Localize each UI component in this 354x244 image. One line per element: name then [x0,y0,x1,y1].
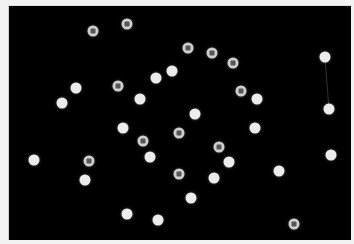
node-dot[interactable] [29,155,40,166]
node-dot[interactable] [167,66,178,77]
node-dot[interactable] [118,123,129,134]
ringed-node-icon[interactable] [113,81,124,92]
ringed-node-icon[interactable] [122,19,133,30]
node-dot[interactable] [145,152,156,163]
node-dot[interactable] [320,52,331,63]
node-dot[interactable] [135,94,146,105]
node-dot[interactable] [80,175,91,186]
node-dot[interactable] [252,94,263,105]
ringed-node-icon[interactable] [88,26,99,37]
ringed-node-icon[interactable] [174,169,185,180]
node-dot[interactable] [122,209,133,220]
node-dot[interactable] [186,193,197,204]
node-dot[interactable] [151,73,162,84]
ringed-node-icon[interactable] [214,142,225,153]
node-dot[interactable] [190,109,201,120]
node-dot[interactable] [57,98,68,109]
ringed-node-icon[interactable] [84,156,95,167]
node-canvas[interactable] [8,5,351,240]
node-dot[interactable] [209,173,220,184]
node-dot[interactable] [71,83,82,94]
node-dot[interactable] [324,104,335,115]
ringed-node-icon[interactable] [174,128,185,139]
node-dot[interactable] [224,157,235,168]
ringed-node-icon[interactable] [228,58,239,69]
node-dot[interactable] [250,123,261,134]
ringed-node-icon[interactable] [207,48,218,59]
node-dot[interactable] [153,215,164,226]
ringed-node-icon[interactable] [183,43,194,54]
ringed-node-icon[interactable] [138,136,149,147]
ringed-node-icon[interactable] [289,219,300,230]
ringed-node-icon[interactable] [236,86,247,97]
node-dot[interactable] [326,150,337,161]
node-dot[interactable] [274,166,285,177]
